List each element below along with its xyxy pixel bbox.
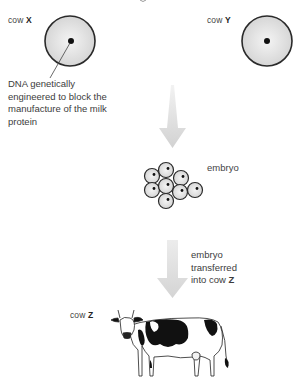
embryo-cell-nucleus [167, 198, 170, 201]
cow-y-nucleus [264, 38, 270, 44]
embryo-cell-nucleus [196, 187, 199, 190]
transfer-line: transferred [191, 262, 237, 275]
cow-illustration [111, 310, 229, 376]
embryo-cell [159, 179, 174, 194]
arrow-down-icon [157, 240, 188, 298]
cow-y-cell [242, 16, 292, 66]
embryo-cell [173, 185, 188, 200]
embryo-cell-nucleus [167, 167, 170, 170]
diagram-canvas [0, 0, 299, 385]
cow-z-label: cow Z [70, 309, 93, 321]
embryo-cell-nucleus [153, 187, 156, 190]
cow-x-nucleus [68, 38, 74, 44]
embryo-cell [145, 169, 160, 184]
embryo-cell-nucleus [153, 173, 156, 176]
transfer-line: into cow Z [191, 274, 237, 287]
embryo-cell [159, 194, 174, 209]
transfer-line: embryo [191, 249, 237, 262]
embryo-label: embryo [207, 162, 239, 174]
embryo-cell [159, 163, 174, 178]
embryo-cell-nucleus [181, 189, 184, 192]
annotation-line: DNA genetically [8, 78, 107, 91]
cow-y-label: cow Y [207, 14, 231, 26]
embryo-cell-nucleus [182, 175, 185, 178]
cow-x-label: cow X [8, 14, 32, 26]
arrow-down-icon [159, 85, 186, 148]
embryo-cell [145, 183, 160, 198]
embryo-cell-nucleus [167, 183, 170, 186]
annotation-line: protein [8, 116, 107, 129]
annotation-line: engineered to block the [8, 91, 107, 104]
embryo-cluster [145, 163, 203, 209]
embryo-cell [188, 183, 203, 198]
top-text-fragment [140, 0, 146, 2]
embryo-cell [174, 171, 189, 186]
cow-x-cell [45, 16, 95, 66]
dna-annotation: DNA genetically engineered to block the … [8, 78, 107, 128]
annotation-line: manufacture of the milk [8, 103, 107, 116]
transfer-label: embryo transferred into cow Z [191, 249, 237, 287]
